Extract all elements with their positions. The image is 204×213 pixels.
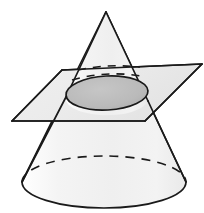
cone-plane-diagram (0, 0, 204, 213)
figure-container: Cone intersected by a plane forming an e… (0, 0, 204, 213)
